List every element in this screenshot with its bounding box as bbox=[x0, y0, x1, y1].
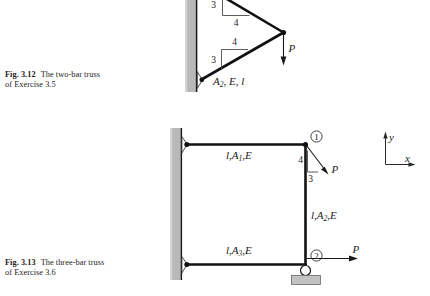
wall-band-edge-light bbox=[170, 128, 172, 280]
figure-3-12-caption-number: Fig. 3.12 bbox=[5, 70, 36, 79]
figure-page: 3 4 4 3 A2, E, l P Fig. 3.12The two-bar … bbox=[0, 0, 430, 296]
force-P-inclined-line bbox=[307, 146, 326, 171]
lower-bar-label-rest: , E, l bbox=[223, 75, 244, 87]
force-P-inclined-arrowhead bbox=[321, 167, 329, 175]
figure-3-13: 1 2 P 4 3 P l,A1,E l, bbox=[0, 118, 430, 296]
axis-y-label: y bbox=[388, 131, 394, 143]
upper-bar bbox=[205, 0, 284, 33]
figure-3-12-caption-line1: The two-bar truss bbox=[41, 70, 100, 79]
right-bar-label-rest: ,E bbox=[327, 209, 337, 221]
slope-rise-label: 4 bbox=[298, 155, 303, 165]
force-P-horizontal-arrowhead bbox=[349, 256, 358, 262]
figure-3-12-caption: Fig. 3.12The two-bar truss of Exercise 3… bbox=[5, 70, 155, 91]
lower-bar-label: A2, E, l bbox=[212, 75, 244, 89]
upper-slope-run-label: 4 bbox=[234, 18, 239, 28]
figure-3-13-caption-line1: The three-bar truss bbox=[41, 258, 105, 267]
roller-support-base bbox=[292, 276, 321, 285]
figure-3-13-caption-number: Fig. 3.13 bbox=[5, 258, 36, 267]
lower-slope-rise-label: 3 bbox=[211, 55, 216, 65]
top-bar-label: l,A1,E bbox=[226, 149, 252, 163]
figure-3-13-caption-line2: of Exercise 3.6 bbox=[5, 268, 56, 277]
roller-support-circle bbox=[301, 266, 311, 276]
figure-3-13-caption: Fig. 3.13The three-bar truss of Exercise… bbox=[5, 258, 155, 279]
force-P-label: P bbox=[288, 42, 296, 54]
slope-run-label: 3 bbox=[308, 174, 313, 184]
pin-support-lower-node bbox=[199, 77, 204, 82]
top-bar-label-rest: ,E bbox=[242, 149, 252, 161]
axis-x-label: x bbox=[404, 152, 410, 164]
bottom-bar-label-main: l,A bbox=[226, 244, 239, 256]
axis-y-arrowhead bbox=[383, 132, 387, 139]
force-P-inclined-label: P bbox=[331, 163, 339, 175]
lower-slope-run-label: 4 bbox=[232, 37, 237, 47]
node-1-badge-label: 1 bbox=[314, 132, 319, 142]
wall-band-edge-light bbox=[185, 0, 187, 92]
right-bar-label: l,A2,E bbox=[311, 209, 337, 223]
pin-support-top-node bbox=[184, 142, 189, 147]
force-P-arrowhead bbox=[281, 57, 287, 66]
top-bar-label-main: l,A bbox=[226, 149, 239, 161]
figure-3-12: 3 4 4 3 A2, E, l P Fig. 3.12The two-bar … bbox=[0, 0, 430, 118]
pin-support-bottom-node bbox=[184, 262, 189, 267]
bottom-bar-label-rest: ,E bbox=[242, 244, 252, 256]
figure-3-12-drawing: 3 4 4 3 A2, E, l P bbox=[0, 0, 430, 118]
force-P-horizontal-label: P bbox=[352, 243, 360, 255]
bottom-bar-label: l,A3,E bbox=[226, 244, 252, 258]
right-bar-label-main: l,A bbox=[311, 209, 324, 221]
figure-3-12-caption-line2: of Exercise 3.5 bbox=[5, 80, 56, 89]
node-2-badge-label: 2 bbox=[314, 251, 319, 261]
upper-slope-rise-label: 3 bbox=[211, 0, 216, 10]
